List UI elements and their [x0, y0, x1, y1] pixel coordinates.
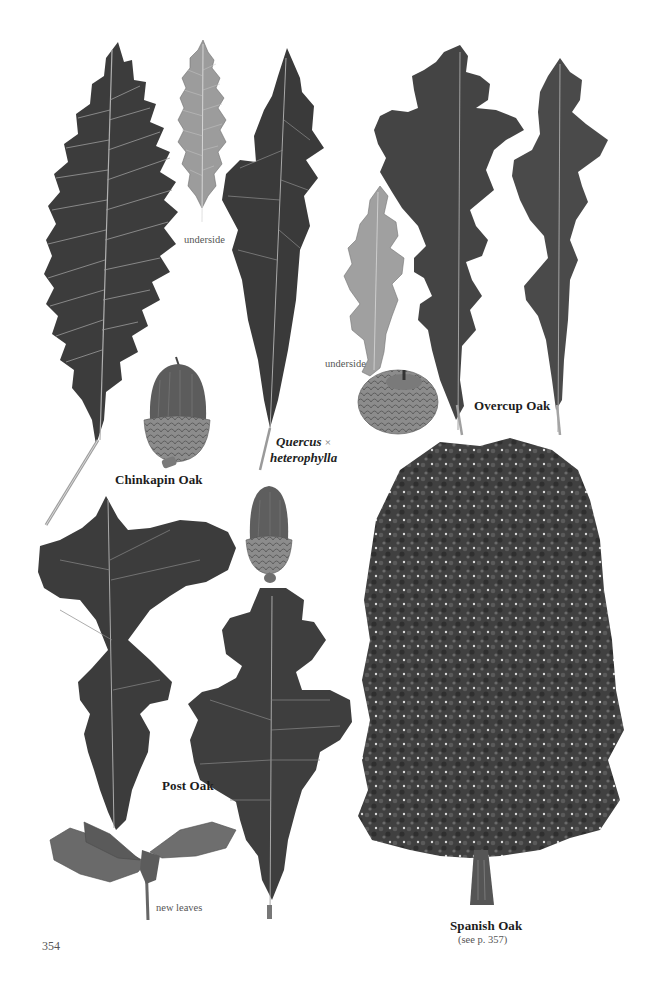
overcup-oak-leaf-2 [512, 58, 608, 435]
quercus-heterophylla-label: Quercus × heterophylla [270, 434, 337, 466]
overcup-oak-label: Overcup Oak [474, 398, 550, 414]
botanical-plate-illustrations [0, 0, 647, 986]
hybrid-sign: × [325, 436, 331, 448]
page-number: 354 [42, 939, 60, 954]
spanish-oak-cross-reference: (see p. 357) [458, 934, 507, 945]
post-oak-leaf-2 [188, 588, 352, 919]
genus-name: Quercus [276, 434, 322, 449]
chinkapin-oak-label: Chinkapin Oak [115, 472, 203, 488]
post-oak-label: Post Oak [162, 778, 214, 794]
overcup-oak-leaf-underside [344, 186, 404, 376]
quercus-heterophylla-leaf [222, 48, 324, 470]
chinkapin-oak-leaf-underside [178, 40, 226, 222]
post-oak-acorn [246, 486, 292, 583]
new-leaves-label: new leaves [156, 902, 202, 913]
chinkapin-oak-acorn [144, 357, 210, 469]
spanish-oak-label: Spanish Oak [450, 918, 522, 934]
overcup-underside-label: underside [325, 358, 366, 369]
overcup-oak-acorn [358, 370, 438, 434]
spanish-oak-tree [358, 438, 624, 905]
post-oak-new-leaves-twig [50, 822, 236, 920]
species-epithet: heterophylla [270, 450, 337, 466]
chinkapin-underside-label: underside [184, 234, 225, 245]
